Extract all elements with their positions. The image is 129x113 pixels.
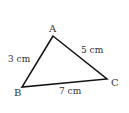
side-label-ab: 3 cm bbox=[8, 55, 30, 64]
vertex-label-a: A bbox=[49, 24, 56, 34]
vertex-label-c: C bbox=[111, 78, 119, 88]
triangle-diagram: A B C 3 cm 5 cm 7 cm bbox=[0, 0, 129, 113]
triangle-abc bbox=[22, 36, 107, 87]
side-label-ac: 5 cm bbox=[81, 46, 103, 55]
side-label-bc: 7 cm bbox=[59, 87, 81, 96]
vertex-label-b: B bbox=[14, 88, 21, 98]
